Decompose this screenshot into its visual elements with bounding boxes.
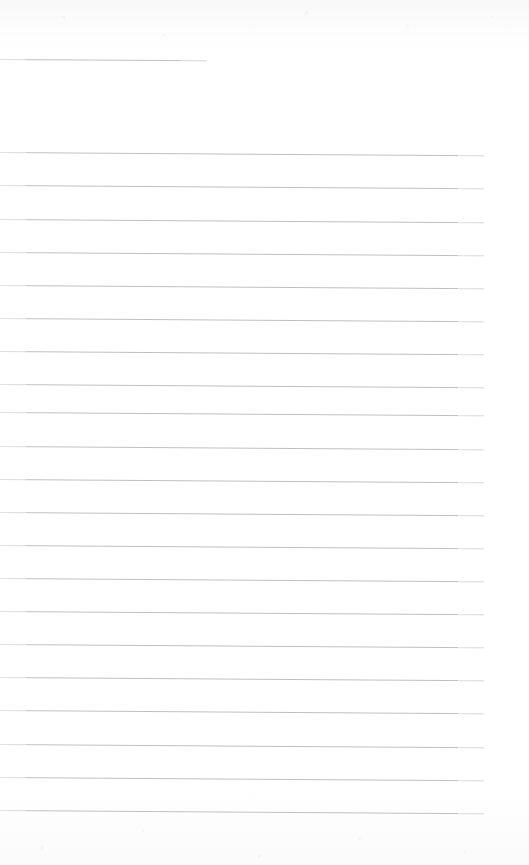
ruled-line — [0, 185, 484, 189]
ruled-line — [0, 59, 207, 61]
ruled-line — [0, 152, 484, 156]
ruled-line — [0, 252, 484, 256]
ruled-line — [0, 777, 484, 781]
ruled-line — [0, 479, 484, 483]
ruled-line — [0, 318, 484, 322]
ruled-line — [0, 611, 484, 615]
page-footer-area — [0, 817, 529, 865]
ruled-line — [0, 446, 484, 450]
ruled-line — [0, 677, 484, 681]
ruled-line — [0, 644, 484, 648]
ruled-line — [0, 384, 484, 388]
ruled-line — [0, 351, 484, 355]
ruled-line — [0, 545, 484, 549]
ruled-line — [0, 744, 484, 748]
ruled-line — [0, 710, 484, 714]
ruled-line — [0, 810, 484, 814]
ruled-line — [0, 412, 484, 416]
ruled-line-layer — [0, 0, 529, 865]
ruled-line — [0, 512, 484, 516]
scanned-page — [0, 0, 529, 865]
ruled-line — [0, 285, 484, 289]
ruled-line — [0, 219, 484, 223]
ruled-line — [0, 578, 484, 582]
